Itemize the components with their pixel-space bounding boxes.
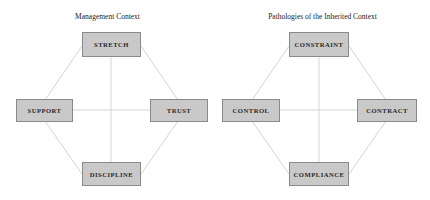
node-constraint: CONSTRAINT: [289, 32, 349, 57]
node-support: SUPPORT: [16, 99, 73, 122]
node-control: CONTROL: [222, 99, 280, 122]
node-stretch: STRETCH: [82, 32, 141, 57]
node-contract: CONTRACT: [357, 99, 417, 122]
management-context-diagram: Management Context STRETCH SUPPORT TRUST…: [0, 0, 215, 200]
node-discipline: DISCIPLINE: [82, 162, 141, 186]
pathologies-context-diagram: Pathologies of the Inherited Context CON…: [215, 0, 430, 200]
node-compliance: COMPLIANCE: [289, 162, 349, 186]
node-trust: TRUST: [150, 99, 208, 122]
